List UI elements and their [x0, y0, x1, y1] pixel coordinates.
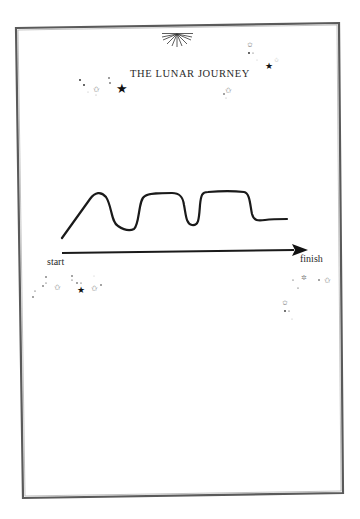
svg-text:✩: ✩ [282, 299, 288, 307]
svg-text:✩: ✩ [93, 85, 100, 94]
svg-text:✩: ✩ [324, 276, 331, 285]
svg-text:✩: ✩ [247, 41, 253, 49]
start-label: start [47, 256, 64, 267]
sunburst-ornament-icon [162, 34, 193, 48]
page-frame [16, 23, 343, 498]
timeline-arrow [62, 244, 308, 256]
journey-curve [62, 191, 287, 238]
svg-text:✲: ✲ [301, 274, 307, 282]
svg-text:✩: ✩ [54, 283, 61, 292]
finish-label: finish [300, 253, 323, 264]
svg-text:✩: ✩ [274, 56, 279, 63]
star-cluster-bottom-right: ✲ ✩ ✩ [282, 274, 331, 320]
star-icon: ★ [116, 81, 128, 96]
star-cluster-top-left: ✩ ★ [79, 77, 128, 96]
svg-text:✩: ✩ [225, 86, 232, 95]
star-cluster-mid-right: ✩ [223, 86, 231, 99]
star-icon: ★ [77, 285, 85, 295]
svg-text:✩: ✩ [91, 284, 98, 293]
worksheet-page: ✩ ★ ✩ ✩ ★ ✩ [0, 0, 360, 519]
page-title: THE LUNAR JOURNEY [10, 68, 360, 79]
star-cluster-bottom-left: ✩ ★ ✩ [32, 275, 102, 298]
star-cluster-top-right: ✩ ★ ✩ [247, 41, 279, 71]
